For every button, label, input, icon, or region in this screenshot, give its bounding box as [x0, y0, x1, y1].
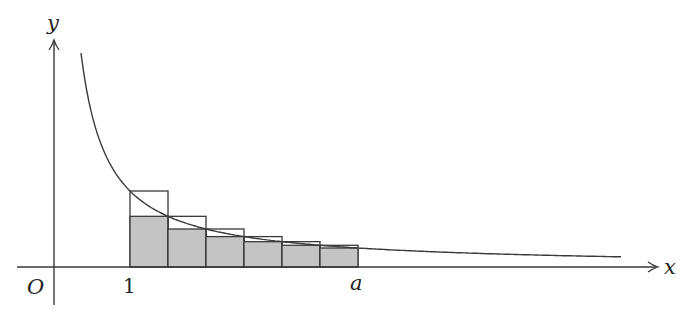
- lower-shaded-rectangle: [282, 245, 320, 267]
- lower-shaded-rectangle: [244, 242, 282, 267]
- lower-shaded-rectangle: [168, 229, 206, 267]
- y-axis-label: y: [46, 11, 60, 35]
- lower-shaded-rectangle: [320, 248, 358, 267]
- tick-label-one: 1: [123, 274, 136, 298]
- lower-shaded-rectangle: [130, 216, 168, 267]
- riemann-sum-diagram: y x O 1 a: [0, 0, 700, 316]
- origin-label: O: [27, 275, 44, 299]
- rectangles-group: [130, 191, 358, 267]
- tick-label-a: a: [350, 271, 363, 295]
- lower-shaded-rectangle: [206, 237, 244, 267]
- x-axis-label: x: [664, 255, 676, 279]
